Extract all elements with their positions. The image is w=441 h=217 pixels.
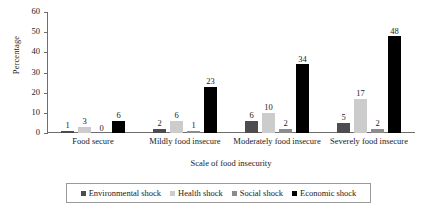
bar[interactable]	[78, 127, 91, 133]
bar-item[interactable]: 48	[388, 12, 401, 133]
bar[interactable]	[61, 131, 74, 133]
bar[interactable]	[279, 129, 292, 133]
bar-item[interactable]: 5	[337, 12, 350, 133]
bar-value-label: 6	[116, 111, 120, 120]
bar[interactable]	[245, 121, 258, 133]
bar-item[interactable]: 10	[262, 12, 275, 133]
bar-group: 610234Moderately food insecure	[231, 12, 323, 133]
legend-swatch-icon	[81, 191, 86, 196]
bar-item[interactable]: 1	[61, 12, 74, 133]
y-axis-tick-label: 50	[32, 26, 41, 36]
legend-item[interactable]: Health shock	[170, 188, 223, 198]
bar-chart-figure: Percentage 01020304050601306Food secure2…	[0, 0, 441, 217]
bar-group-bars: 26123	[139, 12, 231, 133]
bar-value-label: 6	[174, 111, 178, 120]
bar-value-label: 23	[206, 77, 215, 86]
bar-item[interactable]: 17	[354, 12, 367, 133]
bar-value-label: 2	[157, 119, 161, 128]
bar-item[interactable]: 2	[371, 12, 384, 133]
legend-label: Social shock	[240, 188, 283, 198]
bar-item[interactable]: 23	[204, 12, 217, 133]
x-axis-title: Scale of food insecurity	[47, 158, 415, 168]
x-axis-group-label: Severely food insecure	[323, 136, 415, 146]
bar[interactable]	[204, 87, 217, 133]
bar-value-label: 0	[99, 124, 103, 133]
legend-swatch-icon	[292, 191, 297, 196]
bar-item[interactable]: 0	[95, 12, 108, 133]
y-axis-tick-label: 0	[36, 127, 40, 137]
bar-item[interactable]: 2	[153, 12, 166, 133]
y-axis-tick-label: 40	[32, 46, 41, 56]
x-axis-group-label: Food secure	[47, 136, 139, 146]
bar-group: 517248Severely food insecure	[323, 12, 415, 133]
bar-value-label: 34	[298, 55, 307, 64]
y-axis-tick-label: 10	[32, 107, 41, 117]
bar-value-label: 2	[375, 119, 379, 128]
bar-group: 26123Mildly food insecure	[139, 12, 231, 133]
legend-swatch-icon	[232, 191, 237, 196]
bar[interactable]	[187, 131, 200, 133]
bar-item[interactable]: 3	[78, 12, 91, 133]
bar-group: 1306Food secure	[47, 12, 139, 133]
y-axis-tick: 0	[44, 133, 48, 134]
y-axis-tick-label: 30	[32, 67, 41, 77]
bar[interactable]	[262, 113, 275, 133]
legend-item[interactable]: Environmental shock	[81, 188, 161, 198]
bar-item[interactable]: 6	[170, 12, 183, 133]
bar[interactable]	[112, 121, 125, 133]
bar-group-bars: 517248	[323, 12, 415, 133]
bar-value-label: 3	[82, 117, 86, 126]
y-axis-tick-label: 60	[32, 6, 41, 16]
bar-value-label: 17	[356, 89, 365, 98]
bar[interactable]	[296, 64, 309, 133]
legend-label: Environmental shock	[89, 188, 161, 198]
plot-area: 01020304050601306Food secure26123Mildly …	[47, 12, 415, 133]
bar-group-bars: 610234	[231, 12, 323, 133]
legend-item[interactable]: Economic shock	[292, 188, 356, 198]
y-axis-tick-label: 20	[32, 87, 41, 97]
legend-swatch-icon	[170, 191, 175, 196]
chart-legend: Environmental shockHealth shockSocial sh…	[66, 183, 371, 203]
legend-item[interactable]: Social shock	[232, 188, 283, 198]
bar-value-label: 1	[191, 121, 195, 130]
bar-group-bars: 1306	[47, 12, 139, 133]
bar-item[interactable]: 2	[279, 12, 292, 133]
bar-value-label: 48	[390, 27, 399, 36]
x-axis-group-label: Mildly food insecure	[139, 136, 231, 146]
legend-label: Health shock	[178, 188, 223, 198]
bar-item[interactable]: 34	[296, 12, 309, 133]
x-axis-group-label: Moderately food insecure	[231, 136, 323, 146]
bar-value-label: 1	[65, 121, 69, 130]
bar-value-label: 2	[283, 119, 287, 128]
bar[interactable]	[170, 121, 183, 133]
bar-value-label: 6	[249, 111, 253, 120]
bar-value-label: 5	[341, 113, 345, 122]
legend-label: Economic shock	[300, 188, 356, 198]
bar[interactable]	[371, 129, 384, 133]
bar[interactable]	[354, 99, 367, 133]
bar-item[interactable]: 6	[245, 12, 258, 133]
bar-value-label: 10	[264, 103, 273, 112]
bar[interactable]	[388, 36, 401, 133]
y-axis-title: Percentage	[11, 15, 21, 95]
bar[interactable]	[337, 123, 350, 133]
bar[interactable]	[153, 129, 166, 133]
bar-item[interactable]: 1	[187, 12, 200, 133]
bar-item[interactable]: 6	[112, 12, 125, 133]
